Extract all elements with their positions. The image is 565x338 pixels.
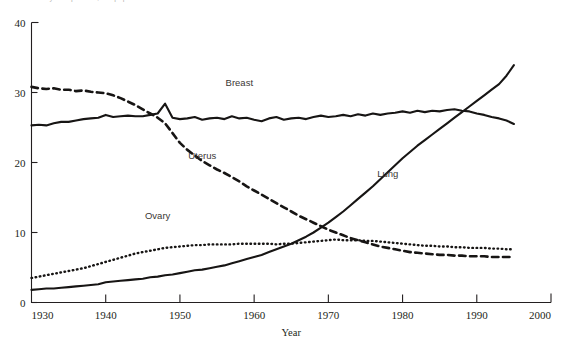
chart-tick-labels: 0102030401930194019501960197019801990200… bbox=[15, 17, 552, 338]
x-tick-label: 1990 bbox=[466, 309, 489, 321]
x-tick-label: 1950 bbox=[169, 309, 192, 321]
series-label-ovary: Ovary bbox=[145, 210, 171, 221]
series-line-uterus bbox=[32, 87, 514, 257]
series-label-uterus: Uterus bbox=[188, 150, 216, 161]
x-tick-label: 1940 bbox=[95, 309, 118, 321]
y-tick-label: 20 bbox=[15, 157, 27, 169]
x-axis-title: Year bbox=[282, 327, 302, 338]
series-label-lung: Lung bbox=[377, 168, 398, 179]
series-label-breast: Breast bbox=[226, 77, 254, 88]
y-tick-label: 30 bbox=[15, 87, 27, 99]
y-tick-label: 0 bbox=[20, 297, 26, 309]
series-line-breast bbox=[32, 104, 514, 126]
y-tick-label: 10 bbox=[15, 227, 27, 239]
line-chart: 0102030401930194019501960197019801990200… bbox=[0, 0, 565, 338]
x-tick-label: 1980 bbox=[392, 309, 415, 321]
chart-series bbox=[32, 65, 514, 290]
figure-container: Mortality rate per 100,000 population 01… bbox=[0, 0, 565, 338]
y-tick-label: 40 bbox=[15, 17, 27, 29]
x-tick-label: 2000 bbox=[529, 309, 552, 321]
series-line-ovary bbox=[32, 240, 514, 279]
x-tick-label: 1960 bbox=[243, 309, 266, 321]
chart-annotations: BreastUterusLungOvary bbox=[145, 77, 398, 221]
x-tick-label: 1970 bbox=[317, 309, 340, 321]
x-tick-label: 1930 bbox=[32, 309, 55, 321]
